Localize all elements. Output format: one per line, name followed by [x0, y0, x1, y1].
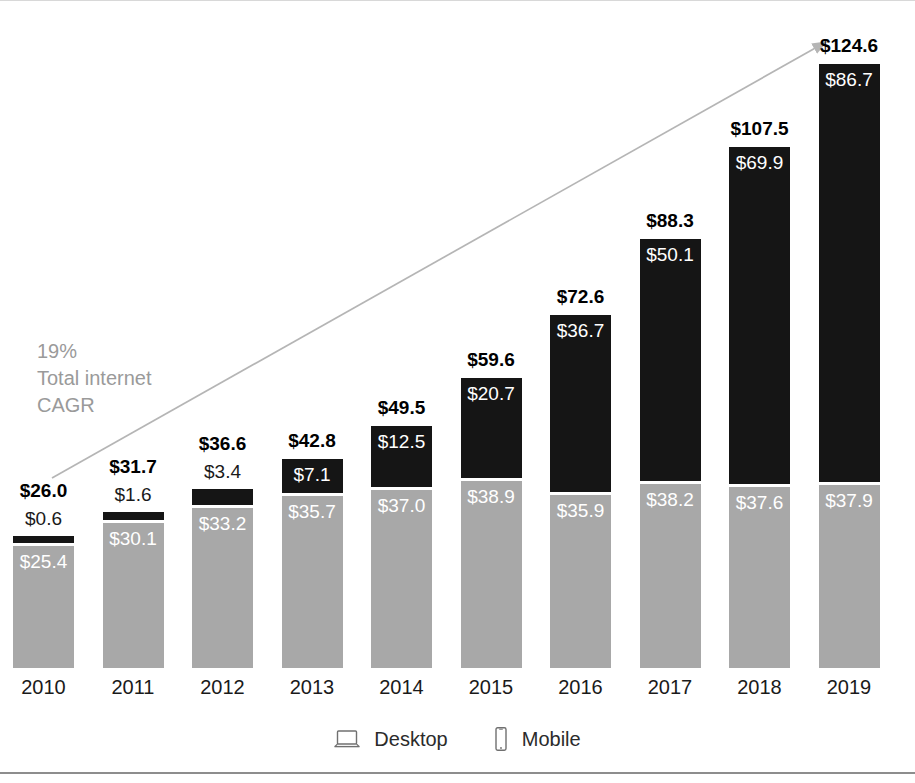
bar-value-desktop-2010: $25.4: [13, 552, 74, 571]
bar-value-desktop-2015: $38.9: [461, 487, 522, 506]
bar-group-2015[interactable]: $38.9$20.7: [461, 378, 522, 668]
bar-value-mobile-2010: $0.6: [13, 509, 74, 528]
bar-segment-desktop-2013[interactable]: $35.7: [282, 496, 343, 668]
bar-value-mobile-2012: $3.4: [192, 462, 253, 481]
x-axis-tick-2014: 2014: [361, 677, 442, 697]
bar-segment-mobile-2014[interactable]: $12.5: [371, 426, 432, 486]
bar-group-2018[interactable]: $37.6$69.9: [729, 147, 790, 668]
bar-value-mobile-2017: $50.1: [640, 245, 701, 264]
bar-total-2017: $88.3: [640, 211, 701, 230]
x-axis-tick-2015: 2015: [451, 677, 532, 697]
bar-total-2013: $42.8: [282, 431, 343, 450]
bar-segment-desktop-2017[interactable]: $38.2: [640, 484, 701, 668]
bar-group-2016[interactable]: $35.9$36.7: [550, 315, 611, 668]
bar-group-2012[interactable]: $33.2: [192, 489, 253, 668]
bar-segment-desktop-2014[interactable]: $37.0: [371, 490, 432, 668]
x-axis-tick-2019: 2019: [809, 677, 890, 697]
legend-item-mobile[interactable]: Mobile: [494, 727, 581, 751]
bar-value-mobile-2011: $1.6: [103, 485, 164, 504]
bar-group-2017[interactable]: $38.2$50.1: [640, 239, 701, 668]
bar-value-mobile-2019: $86.7: [819, 70, 880, 89]
chart-container: 19% Total internet CAGR $0.6$26.0$25.4$1…: [0, 0, 915, 783]
bar-total-2019: $124.6: [819, 36, 880, 55]
bar-value-desktop-2011: $30.1: [103, 529, 164, 548]
bottom-divider: [0, 772, 915, 774]
bar-segment-mobile-2010[interactable]: [13, 536, 74, 543]
plot-area: $0.6$26.0$25.4$1.6$31.7$30.1$3.4$36.6$33…: [0, 0, 915, 668]
x-axis-tick-2010: 2010: [3, 677, 84, 697]
bar-group-2010[interactable]: $25.4: [13, 536, 74, 668]
bar-value-mobile-2016: $36.7: [550, 321, 611, 340]
x-axis-tick-2018: 2018: [719, 677, 800, 697]
bar-value-desktop-2012: $33.2: [192, 514, 253, 533]
bar-group-2013[interactable]: $35.7$7.1: [282, 459, 343, 668]
bar-total-2012: $36.6: [192, 434, 253, 453]
x-axis-tick-2011: 2011: [93, 677, 174, 697]
bar-total-2010: $26.0: [13, 481, 74, 500]
chart-legend: Desktop Mobile: [0, 716, 915, 762]
bar-segment-desktop-2012[interactable]: $33.2: [192, 508, 253, 668]
bar-value-desktop-2013: $35.7: [282, 502, 343, 521]
bar-segment-desktop-2011[interactable]: $30.1: [103, 523, 164, 668]
bar-total-2011: $31.7: [103, 457, 164, 476]
bar-total-2016: $72.6: [550, 287, 611, 306]
bar-group-2014[interactable]: $37.0$12.5: [371, 426, 432, 668]
bar-total-2018: $107.5: [729, 119, 790, 138]
bar-segment-desktop-2010[interactable]: $25.4: [13, 546, 74, 668]
bar-segment-mobile-2012[interactable]: [192, 489, 253, 505]
x-axis-tick-2012: 2012: [182, 677, 263, 697]
laptop-icon: [334, 730, 360, 749]
bar-group-2011[interactable]: $30.1: [103, 512, 164, 668]
x-axis-tick-2013: 2013: [272, 677, 353, 697]
bar-total-2014: $49.5: [371, 398, 432, 417]
bar-segment-desktop-2015[interactable]: $38.9: [461, 481, 522, 668]
bar-value-mobile-2018: $69.9: [729, 153, 790, 172]
bar-value-desktop-2017: $38.2: [640, 490, 701, 509]
bar-value-desktop-2019: $37.9: [819, 491, 880, 510]
bar-value-mobile-2015: $20.7: [461, 384, 522, 403]
bar-value-desktop-2018: $37.6: [729, 493, 790, 512]
bar-segment-desktop-2018[interactable]: $37.6: [729, 487, 790, 668]
bar-segment-mobile-2011[interactable]: [103, 512, 164, 520]
bar-segment-desktop-2016[interactable]: $35.9: [550, 495, 611, 668]
smartphone-icon: [494, 727, 508, 751]
bar-segment-mobile-2015[interactable]: $20.7: [461, 378, 522, 478]
bar-value-desktop-2014: $37.0: [371, 496, 432, 515]
bar-segment-desktop-2019[interactable]: $37.9: [819, 485, 880, 668]
bar-group-2019[interactable]: $37.9$86.7: [819, 64, 880, 668]
legend-label-mobile: Mobile: [522, 729, 581, 749]
legend-label-desktop: Desktop: [374, 729, 447, 749]
bar-value-mobile-2013: $7.1: [282, 465, 343, 484]
bar-total-2015: $59.6: [461, 350, 522, 369]
bar-segment-mobile-2018[interactable]: $69.9: [729, 147, 790, 484]
bar-segment-mobile-2017[interactable]: $50.1: [640, 239, 701, 480]
x-axis-tick-2017: 2017: [630, 677, 711, 697]
bar-segment-mobile-2013[interactable]: $7.1: [282, 459, 343, 493]
bar-segment-mobile-2016[interactable]: $36.7: [550, 315, 611, 492]
legend-item-desktop[interactable]: Desktop: [334, 729, 447, 749]
bar-value-desktop-2016: $35.9: [550, 501, 611, 520]
bar-value-mobile-2014: $12.5: [371, 432, 432, 451]
bar-segment-mobile-2019[interactable]: $86.7: [819, 64, 880, 482]
x-axis-tick-2016: 2016: [540, 677, 621, 697]
